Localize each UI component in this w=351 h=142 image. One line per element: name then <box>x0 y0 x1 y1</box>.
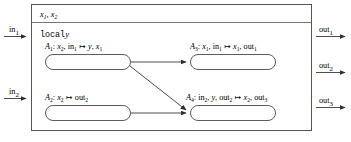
diagram-canvas <box>0 0 351 142</box>
component-block-diagram: x1, x2 localy in1 in2 out1 out2 out3 A1:… <box>0 0 351 142</box>
action-node-A3 <box>191 55 276 70</box>
input-label-in1: in1 <box>9 25 19 36</box>
output-label-out2: out2 <box>319 61 333 72</box>
action-node-A4 <box>191 106 276 121</box>
action-node-A2 <box>46 106 131 121</box>
action-signature-A2: A2: x2 ↦ out2 <box>45 94 88 102</box>
local-variable: y <box>65 29 69 39</box>
action-signature-A4: A4: in2, y, out2 ↦ x2, out3 <box>186 94 267 102</box>
input-label-in2: in2 <box>9 87 19 98</box>
output-label-out1: out1 <box>319 25 333 36</box>
local-keyword: local <box>40 30 65 40</box>
local-declaration: localy <box>40 29 69 40</box>
action-signature-A3: A3: x1, in1 ↦ x1, out1 <box>190 43 257 51</box>
action-node-A1 <box>46 55 131 70</box>
output-label-out3: out3 <box>319 96 333 107</box>
state-variables-label: x1, x2 <box>40 10 57 19</box>
action-signature-A1: A1: x2, in1 ↦ y, x1 <box>45 43 102 51</box>
